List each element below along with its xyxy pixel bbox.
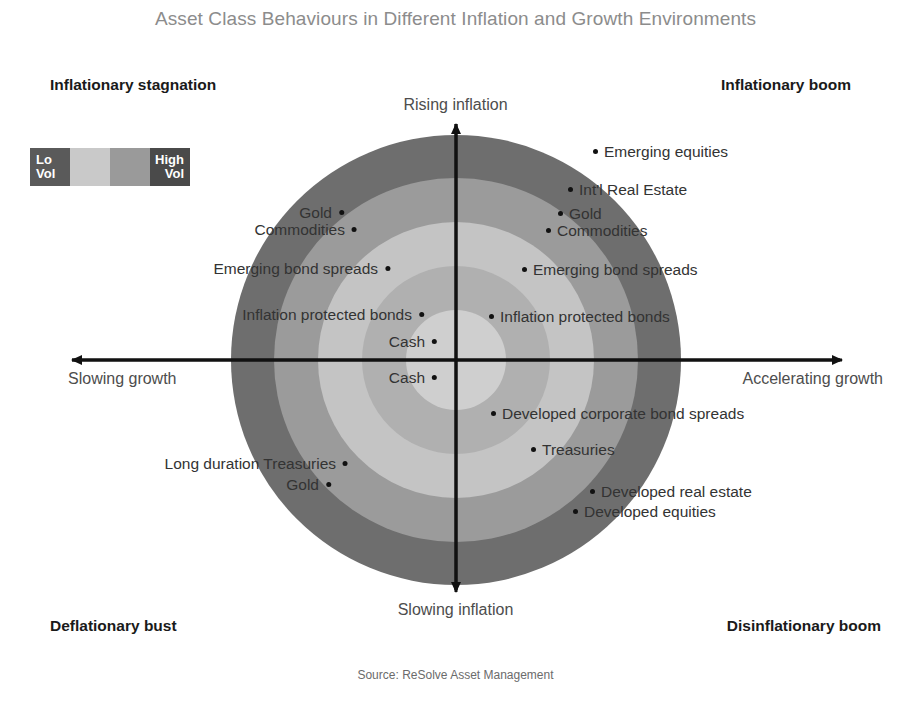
data-point-text: Gold xyxy=(299,204,332,221)
data-point-label: Emerging equities xyxy=(593,143,728,161)
data-point-marker xyxy=(352,227,357,232)
quadrant-label-bottom-right: Disinflationary boom xyxy=(727,617,881,635)
data-point-text: Commodities xyxy=(557,222,647,239)
data-point-text: Emerging equities xyxy=(604,143,728,160)
quadrant-label-bottom-left: Deflationary bust xyxy=(50,617,177,635)
data-point-text: Cash xyxy=(389,369,425,386)
data-point-marker xyxy=(419,312,424,317)
data-point-text: Long duration Treasuries xyxy=(165,455,336,472)
data-point-label: Developed equities xyxy=(573,503,716,521)
data-point-label: Inflation protected bonds xyxy=(242,306,424,324)
source-caption: Source: ReSolve Asset Management xyxy=(0,668,911,682)
data-point-text: Emerging bond spreads xyxy=(533,261,698,278)
data-point-text: Treasuries xyxy=(542,441,615,458)
chart-canvas: Asset Class Behaviours in Different Infl… xyxy=(0,0,911,708)
data-point-marker xyxy=(339,210,344,215)
data-point-marker xyxy=(432,339,437,344)
data-point-text: Inflation protected bonds xyxy=(500,308,670,325)
axis-label-slowing-growth: Slowing growth xyxy=(68,370,177,388)
data-point-text: Gold xyxy=(286,476,319,493)
data-point-marker xyxy=(432,375,437,380)
data-point-marker xyxy=(590,489,595,494)
data-point-marker xyxy=(489,314,494,319)
data-point-label: Cash xyxy=(389,369,437,387)
data-point-label: Developed real estate xyxy=(590,483,752,501)
data-point-marker xyxy=(546,228,551,233)
data-point-text: Developed equities xyxy=(584,503,716,520)
data-point-label: Commodities xyxy=(255,221,357,239)
quadrant-label-top-left: Inflationary stagnation xyxy=(50,76,216,94)
page-title: Asset Class Behaviours in Different Infl… xyxy=(0,6,911,32)
data-point-label: Long duration Treasuries xyxy=(165,455,348,473)
legend-low-vol-label: Lo Vol xyxy=(36,153,55,181)
data-point-label: Inflation protected bonds xyxy=(489,308,670,326)
quadrant-label-top-right: Inflationary boom xyxy=(721,76,851,94)
volatility-legend: Lo Vol High Vol xyxy=(30,148,190,186)
data-point-label: Gold xyxy=(299,204,344,222)
legend-band-3 xyxy=(110,148,150,186)
data-point-marker xyxy=(522,267,527,272)
axis-label-rising-inflation: Rising inflation xyxy=(0,96,911,114)
data-point-label: Int'l Real Estate xyxy=(568,181,687,199)
data-point-marker xyxy=(491,411,496,416)
data-point-text: Inflation protected bonds xyxy=(242,306,412,323)
data-point-text: Emerging bond spreads xyxy=(213,260,378,277)
data-point-marker xyxy=(531,447,536,452)
data-point-text: Developed real estate xyxy=(601,483,752,500)
data-point-label: Cash xyxy=(389,333,437,351)
data-point-text: Gold xyxy=(569,205,602,222)
data-point-text: Int'l Real Estate xyxy=(579,181,687,198)
data-point-marker xyxy=(326,482,331,487)
legend-high-vol-label: High Vol xyxy=(155,153,184,181)
data-point-label: Treasuries xyxy=(531,441,615,459)
data-point-marker xyxy=(568,187,573,192)
data-point-marker xyxy=(593,149,598,154)
data-point-marker xyxy=(343,461,348,466)
data-point-marker xyxy=(558,211,563,216)
axis-label-slowing-inflation: Slowing inflation xyxy=(0,601,911,619)
data-point-label: Developed corporate bond spreads xyxy=(491,405,744,423)
data-point-marker xyxy=(573,509,578,514)
data-point-label: Emerging bond spreads xyxy=(522,261,698,279)
data-point-label: Emerging bond spreads xyxy=(213,260,390,278)
data-point-text: Cash xyxy=(389,333,425,350)
data-point-text: Commodities xyxy=(255,221,345,238)
data-point-text: Developed corporate bond spreads xyxy=(502,405,744,422)
data-point-label: Commodities xyxy=(546,222,647,240)
data-point-marker xyxy=(385,266,390,271)
axis-label-accelerating-growth: Accelerating growth xyxy=(742,370,883,388)
data-point-label: Gold xyxy=(558,205,602,223)
data-point-label: Gold xyxy=(286,476,331,494)
legend-band-2 xyxy=(70,148,110,186)
